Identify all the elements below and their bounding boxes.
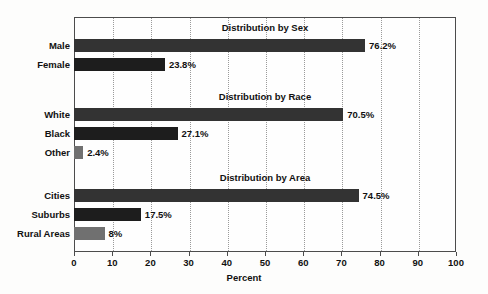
bar-value-label: 17.5% <box>145 208 172 221</box>
category-label: Female <box>2 59 74 70</box>
bar <box>74 127 178 140</box>
x-axis-tick-mark <box>303 252 304 256</box>
x-axis-tick-label: 0 <box>71 257 76 268</box>
x-axis-tick-label: 50 <box>260 257 271 268</box>
x-axis-title: Percent <box>0 272 488 283</box>
category-label: Cities <box>2 190 74 201</box>
bar-value-label: 76.2% <box>369 39 396 52</box>
bar <box>74 58 165 71</box>
bar-value-label: 70.5% <box>347 108 374 121</box>
x-axis-tick-label: 70 <box>336 257 347 268</box>
x-axis-tick-mark <box>265 252 266 256</box>
category-label: Suburbs <box>2 209 74 220</box>
gridline <box>419 18 421 251</box>
bar-value-label: 74.5% <box>363 189 390 202</box>
section-title: Distribution by Sex <box>74 22 456 33</box>
gridline <box>342 18 344 251</box>
bar-chart: MaleFemaleWhiteBlackOtherCitiesSuburbsRu… <box>0 0 488 294</box>
x-axis-tick-mark <box>74 252 75 256</box>
bar <box>74 39 365 52</box>
category-label: Other <box>2 147 74 158</box>
section-title: Distribution by Race <box>74 91 456 102</box>
x-axis-tick-label: 30 <box>183 257 194 268</box>
x-axis-tick-mark <box>112 252 113 256</box>
x-axis-tick-label: 60 <box>298 257 309 268</box>
bar-value-label: 8% <box>109 227 123 240</box>
x-axis-tick-label: 10 <box>107 257 118 268</box>
bar <box>74 146 83 159</box>
bar <box>74 227 105 240</box>
category-label: White <box>2 109 74 120</box>
bar <box>74 108 343 121</box>
gridline <box>304 18 306 251</box>
x-axis-tick-mark <box>418 252 419 256</box>
gridline <box>266 18 268 251</box>
bar-value-label: 27.1% <box>182 127 209 140</box>
x-axis-tick-label: 40 <box>222 257 233 268</box>
x-axis-tick-label: 90 <box>413 257 424 268</box>
bar <box>74 208 141 221</box>
x-axis-tick-mark <box>341 252 342 256</box>
bar-value-label: 23.8% <box>169 58 196 71</box>
x-axis-tick-label: 20 <box>145 257 156 268</box>
section-title: Distribution by Area <box>74 172 456 183</box>
category-label: Male <box>2 40 74 51</box>
category-label: Rural Areas <box>2 228 74 239</box>
gridline <box>228 18 230 251</box>
bar-value-label: 2.4% <box>87 146 109 159</box>
gridline <box>381 18 383 251</box>
x-axis-tick-mark <box>227 252 228 256</box>
x-axis-tick-mark <box>380 252 381 256</box>
category-label-column: MaleFemaleWhiteBlackOtherCitiesSuburbsRu… <box>0 17 74 252</box>
x-axis-tick-label: 80 <box>374 257 385 268</box>
x-axis-tick-label: 100 <box>448 257 464 268</box>
bar <box>74 189 359 202</box>
x-axis-tick-mark <box>456 252 457 256</box>
category-label: Black <box>2 128 74 139</box>
x-axis-tick-mark <box>189 252 190 256</box>
x-axis-tick-mark <box>150 252 151 256</box>
